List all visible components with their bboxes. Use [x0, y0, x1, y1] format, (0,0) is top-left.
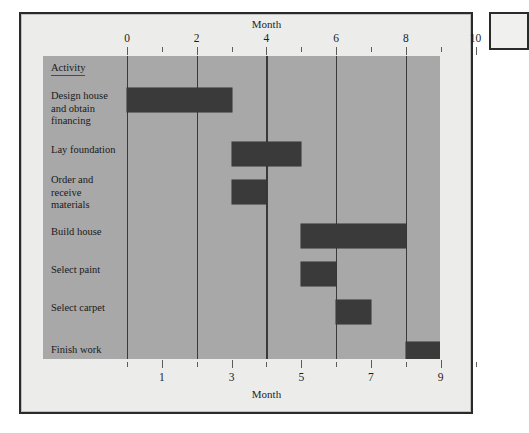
- top-tick-label: 4: [264, 32, 270, 44]
- top-tick-mark: [476, 47, 477, 55]
- bottom-tick-mark: [371, 360, 372, 368]
- activity-label: Finish work: [51, 344, 129, 357]
- activity-label-line: Select carpet: [51, 302, 129, 315]
- activity-label-line: financing: [51, 115, 129, 128]
- activity-label-line: Select paint: [51, 264, 129, 277]
- activity-label: Order andreceivematerials: [51, 174, 129, 212]
- top-tick-mark: [406, 47, 407, 55]
- task-bar: [301, 262, 336, 286]
- top-minor-tick-mark: [162, 47, 163, 52]
- top-minor-tick-mark: [441, 47, 442, 52]
- bottom-tick-mark: [301, 360, 302, 368]
- activity-label: Lay foundation: [51, 144, 129, 157]
- bottom-tick-mark: [232, 360, 233, 368]
- month-gridline: [406, 56, 407, 359]
- task-bar: [127, 88, 232, 112]
- activity-label-line: receive: [51, 187, 129, 200]
- activity-label-line: Order and: [51, 174, 129, 187]
- activity-label-line: Finish work: [51, 344, 129, 357]
- top-minor-tick-mark: [371, 47, 372, 52]
- bottom-tick-label: 9: [438, 371, 444, 383]
- top-minor-tick-mark: [232, 47, 233, 52]
- activity-label-line: Build house: [51, 226, 129, 239]
- activity-label-line: Design house: [51, 90, 129, 103]
- bottom-minor-tick-mark: [127, 362, 128, 367]
- top-tick-mark: [127, 47, 128, 55]
- bottom-tick-label: 7: [368, 371, 374, 383]
- bottom-tick-mark: [441, 360, 442, 368]
- bottom-tick-label: 5: [298, 371, 304, 383]
- plot-area: Activity Design houseand obtainfinancing…: [43, 56, 440, 359]
- bottom-minor-tick-mark: [197, 362, 198, 367]
- adjacent-figure-panel: [489, 12, 529, 50]
- top-tick-mark: [336, 47, 337, 55]
- activity-label: Design houseand obtainfinancing: [51, 90, 129, 128]
- top-tick-label: 0: [124, 32, 130, 44]
- bottom-tick-label: 3: [229, 371, 235, 383]
- task-bar: [301, 224, 406, 248]
- activity-label: Select paint: [51, 264, 129, 277]
- bottom-tick-label: 1: [159, 371, 165, 383]
- bottom-tick-mark: [162, 360, 163, 368]
- bottom-minor-tick-mark: [336, 362, 337, 367]
- top-tick-label: 2: [194, 32, 200, 44]
- bottom-minor-tick-mark: [266, 362, 267, 367]
- top-tick-mark: [266, 47, 267, 55]
- bottom-minor-tick-mark: [406, 362, 407, 367]
- bottom-minor-tick-mark: [476, 362, 477, 367]
- task-bar: [232, 180, 267, 204]
- top-tick-mark: [197, 47, 198, 55]
- top-axis-title: Month: [127, 18, 406, 30]
- activity-label-line: and obtain: [51, 103, 129, 116]
- activity-label-line: Lay foundation: [51, 144, 129, 157]
- activity-column-header: Activity: [51, 62, 85, 76]
- activity-label: Build house: [51, 226, 129, 239]
- top-tick-label: 6: [333, 32, 339, 44]
- top-tick-label: 10: [470, 32, 482, 44]
- month-gridline: [266, 56, 267, 359]
- top-minor-tick-mark: [301, 47, 302, 52]
- task-bar: [336, 300, 371, 324]
- task-bar: [232, 142, 302, 166]
- activity-label-column: Activity Design houseand obtainfinancing…: [43, 56, 127, 359]
- activity-label: Select carpet: [51, 302, 129, 315]
- activity-label-line: materials: [51, 199, 129, 212]
- task-bar: [406, 342, 440, 359]
- bottom-axis-title: Month: [127, 388, 406, 400]
- top-tick-label: 8: [403, 32, 409, 44]
